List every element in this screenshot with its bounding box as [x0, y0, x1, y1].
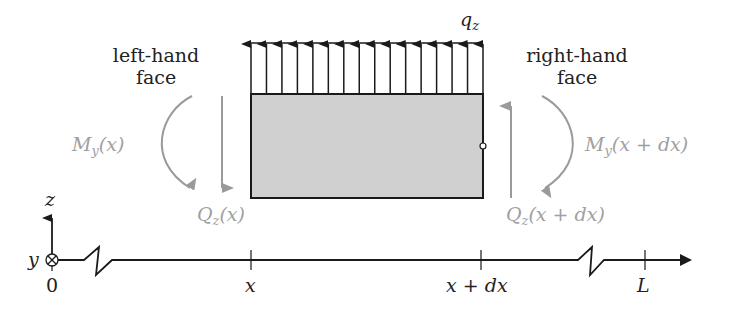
tick-label-L: L [637, 274, 650, 296]
y-axis-label: y [28, 248, 39, 270]
tick-label-0: 0 [46, 274, 58, 296]
moment-left-arc [162, 96, 192, 188]
reference-point [480, 143, 486, 149]
left-face-label: left-hand face [96, 44, 216, 88]
shear-left-label: Qz(x) [197, 203, 245, 232]
y-axis-symbol [46, 254, 58, 266]
tick-label-x-dx: x + dx [446, 274, 508, 296]
beam-element [251, 94, 483, 198]
x-axis [58, 247, 682, 275]
moment-right-label: My(x + dx) [585, 133, 688, 162]
load-label: qz [460, 8, 479, 37]
tick-label-x: x [245, 274, 256, 296]
shear-right-label: Qz(x + dx) [506, 203, 605, 232]
distributed-load [251, 43, 483, 94]
moment-left-label: My(x) [72, 133, 124, 162]
right-face-label: right-hand face [512, 44, 642, 88]
z-axis-label: z [45, 188, 55, 210]
moment-right-arc [542, 96, 573, 188]
